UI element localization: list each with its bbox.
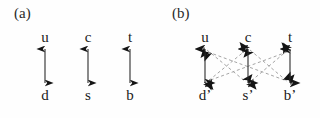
- node-label-sprime-b: s’: [243, 88, 254, 103]
- panel-b: (b): [160, 0, 320, 118]
- node-label-t-a: t: [128, 30, 132, 45]
- node-label-t-b: t: [288, 30, 292, 45]
- node-label-b-a-text: b: [126, 87, 134, 103]
- node-label-b-a: b: [126, 88, 134, 103]
- node-label-bprime-b-prime: ’: [291, 87, 296, 103]
- node-label-bprime-b: b’: [284, 88, 297, 103]
- node-label-d-a-text: d: [41, 87, 49, 103]
- node-label-bprime-b-text: b: [284, 87, 292, 103]
- figure-canvas: (a) u c t d s b (b): [0, 0, 320, 118]
- node-label-s-a-text: s: [85, 87, 91, 103]
- panel-a-edges: [0, 0, 160, 118]
- node-label-c-a: c: [85, 30, 92, 45]
- node-label-dprime-b: d’: [199, 88, 212, 103]
- node-label-c-b: c: [245, 30, 252, 45]
- node-label-u-b: u: [201, 30, 209, 45]
- node-label-dprime-b-prime: ’: [206, 87, 211, 103]
- node-label-d-a: d: [41, 88, 49, 103]
- node-label-u-a: u: [41, 30, 49, 45]
- node-label-sprime-b-prime: ’: [248, 87, 253, 103]
- node-label-dprime-b-text: d: [199, 87, 207, 103]
- panel-a: (a) u c t d s b: [0, 0, 160, 118]
- node-label-s-a: s: [85, 88, 91, 103]
